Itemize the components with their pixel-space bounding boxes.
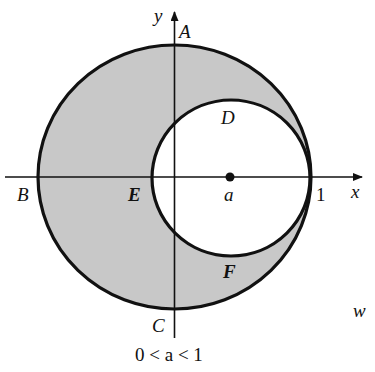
unit-label: 1 — [316, 184, 326, 205]
x-axis-label: x — [350, 181, 360, 202]
diagram-canvas: y x A B C D E F a 1 w 0 < a < 1 — [0, 0, 375, 372]
y-axis-label: y — [152, 5, 163, 26]
point-label-d: D — [220, 107, 235, 128]
condition-label: 0 < a < 1 — [135, 344, 203, 365]
point-label-e: E — [127, 184, 141, 205]
point-label-a-upper: A — [177, 21, 191, 42]
point-label-c: C — [152, 315, 165, 336]
point-label-b: B — [17, 184, 29, 205]
center-point-a — [226, 173, 235, 182]
point-label-f: F — [222, 261, 236, 282]
center-label-a: a — [224, 184, 234, 205]
plane-label-w: w — [353, 300, 366, 321]
